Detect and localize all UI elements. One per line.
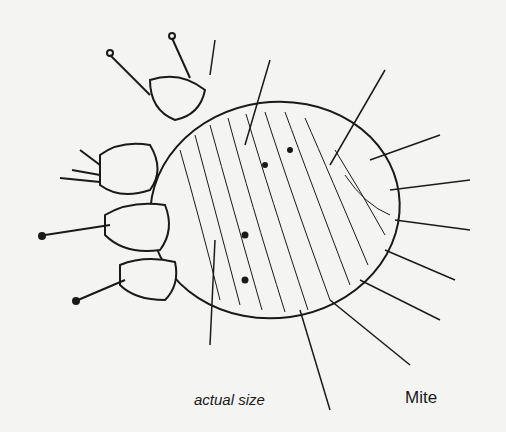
caption-mite: Mite [405,388,437,408]
mite-illustration [0,0,506,432]
caption-actual-size: actual size [194,391,265,408]
